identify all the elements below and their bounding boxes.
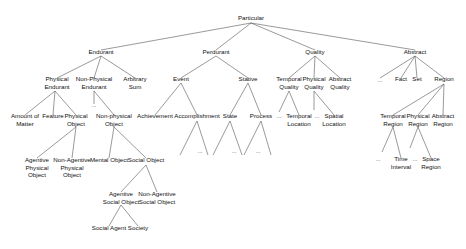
ontology-tree-diagram: ParticularEndurantPerdurantQualityAbstra… xyxy=(0,0,466,249)
node-label-line: Feature xyxy=(42,112,64,119)
node-accomplishment-ellipsis: ... xyxy=(197,148,202,154)
node-label-line: Interval xyxy=(391,163,411,170)
node-label-line: Temporal xyxy=(380,112,405,119)
node-label-line: Physical xyxy=(302,75,325,82)
node-label-line: Quality xyxy=(305,48,325,55)
node-temporal-quality-ellipsis: ... xyxy=(276,113,281,119)
node-non-physical-endurant: Non-PhysicalEndurant xyxy=(76,75,112,90)
tree-edge xyxy=(418,84,444,115)
node-arbitrary-sum: ArbitrarySum xyxy=(123,75,147,90)
tree-edge xyxy=(121,165,146,192)
node-label-line: Quality xyxy=(330,83,350,90)
node-label-line: Arbitrary xyxy=(123,75,147,82)
node-label-line: ... xyxy=(255,148,260,154)
node-label-line: Event xyxy=(173,75,189,82)
node-label-line: Set xyxy=(412,75,422,82)
node-label-line: Region xyxy=(383,120,403,127)
node-label-line: ... xyxy=(231,148,236,154)
tree-edge xyxy=(382,127,393,152)
node-label-line: Stative xyxy=(239,75,258,82)
tree-edge xyxy=(146,165,157,192)
node-label-line: Non-physical xyxy=(96,112,132,119)
tree-edge xyxy=(109,127,114,158)
node-label-line: Endurant xyxy=(44,83,69,90)
tree-edge xyxy=(251,23,315,50)
node-label-line: Social Agent xyxy=(92,224,127,231)
node-label-line: Abstract xyxy=(329,75,352,82)
node-label-line: Endurant xyxy=(88,48,113,55)
node-label-line: Region xyxy=(421,163,441,170)
node-physical-quality: PhysicalQuality xyxy=(302,75,325,90)
node-non-agentive-physical-object: Non-AgentivePhysicalObject xyxy=(53,156,91,178)
node-stative: Stative xyxy=(239,75,258,82)
tree-edge xyxy=(279,91,289,112)
tree-edge xyxy=(393,84,444,115)
node-physical-region-ellipsis: ... xyxy=(412,156,417,162)
node-non-physical-object: Non-physicalObject xyxy=(96,112,132,127)
node-state: State xyxy=(223,112,238,119)
tree-edge xyxy=(101,23,251,50)
node-label-line: Object xyxy=(67,120,85,127)
node-label-line: Endurant xyxy=(81,83,106,90)
node-label-line: Temporal xyxy=(286,112,311,119)
node-quality: Quality xyxy=(305,48,325,55)
nodes-layer: ParticularEndurantPerdurantQualityAbstra… xyxy=(11,14,455,231)
node-label-line: Temporal xyxy=(276,75,301,82)
node-label-line: Space xyxy=(422,155,440,162)
node-event: Event xyxy=(173,75,189,82)
node-label-line: Location xyxy=(287,120,311,127)
node-label-line: Accomplishment xyxy=(174,112,220,119)
node-spatial-location: SpatialLocation xyxy=(322,112,346,127)
tree-edge xyxy=(410,127,418,148)
node-label-line: Mental Object xyxy=(90,156,128,163)
tree-edge xyxy=(72,127,76,158)
node-feature: Feature xyxy=(42,112,64,119)
node-space-region: SpaceRegion xyxy=(421,155,441,170)
node-label-line: Social Object xyxy=(128,156,165,163)
node-label-line: Location xyxy=(322,120,346,127)
node-label-line: Non-Physical xyxy=(76,75,112,82)
tree-edge xyxy=(216,23,251,50)
tree-edge xyxy=(181,83,197,115)
node-temporal-region: TemporalRegion xyxy=(380,112,405,127)
node-label-line: ... xyxy=(412,156,417,162)
node-label-line: Object xyxy=(63,171,81,178)
node-fact: Fact xyxy=(395,75,407,82)
node-label-line: Particular xyxy=(238,14,264,21)
tree-edge xyxy=(248,83,261,115)
tree-edge xyxy=(418,127,431,158)
node-label-line: Achievement xyxy=(137,112,173,119)
node-label-line: Non-Agentive xyxy=(53,156,91,163)
node-process: Process xyxy=(250,112,272,119)
node-abstract-quality: AbstractQuality xyxy=(329,75,352,90)
node-label-line: Object xyxy=(105,120,123,127)
node-label-line: Amount of xyxy=(11,112,39,119)
node-label-line: Agentive xyxy=(109,190,134,197)
node-endurant: Endurant xyxy=(88,48,113,55)
node-temporal-quality: TemporalQuality xyxy=(276,75,301,90)
node-physical-object: PhysicalObject xyxy=(64,112,87,127)
node-label-line: Agentive xyxy=(25,156,50,163)
node-time-interval: TimeInterval xyxy=(391,155,411,170)
node-label-line: ... xyxy=(375,156,380,162)
node-state-ellipsis: ... xyxy=(231,148,236,154)
node-label-line: Region xyxy=(434,75,454,82)
node-physical-quality-ellipsis: ... xyxy=(314,113,319,119)
tree-edge xyxy=(109,205,121,226)
node-social-agent: Social Agent xyxy=(92,224,127,231)
node-label-line: Non-Agentive xyxy=(138,190,176,197)
node-label-line: Perdurant xyxy=(202,48,229,55)
node-label-line: Matter xyxy=(16,120,34,127)
node-achievement: Achievement xyxy=(137,112,173,119)
node-label-line: Abstract xyxy=(432,112,455,119)
node-agentive-social-object: AgentiveSocial Object xyxy=(103,190,140,205)
node-label-line: Physical xyxy=(60,164,83,171)
node-particular: Particular xyxy=(238,14,264,21)
node-label-line: Object xyxy=(28,171,46,178)
tree-edge xyxy=(155,83,181,115)
node-label-line: Abstract xyxy=(404,48,427,55)
node-mental-object: Mental Object xyxy=(90,156,128,163)
node-label-line: ... xyxy=(276,113,281,119)
node-physical-region: PhysicalRegion xyxy=(406,112,429,127)
node-abstract-ellipsis: ... xyxy=(377,77,382,83)
